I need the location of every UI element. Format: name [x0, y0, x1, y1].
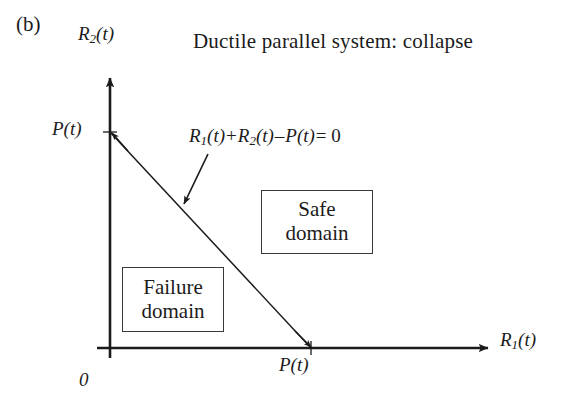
y-axis-label: R2(t) [78, 24, 114, 45]
failure-domain-line1: Failure [143, 276, 202, 300]
x-axis-label-argument: (t) [518, 329, 536, 350]
safe-domain-box: Safe domain [261, 190, 373, 254]
equation-r2-argument: (t) [256, 125, 274, 146]
y-axis-label-argument: (t) [96, 23, 114, 44]
equation-p: P(t) [285, 125, 315, 146]
equation-r2: R [238, 125, 250, 146]
limit-state-line-top-arrow [112, 133, 128, 151]
safe-domain-line1: Safe [298, 198, 335, 222]
figure-panel-b: (b) Ductile parallel system: collapse [0, 0, 574, 406]
origin-label: 0 [79, 370, 89, 389]
equation-r1: R [189, 125, 201, 146]
failure-domain-box: Failure domain [122, 267, 224, 332]
equation-r1-argument: (t) [207, 125, 225, 146]
equation-equals-zero: = 0 [315, 125, 342, 146]
equation-leader-arrow [184, 154, 208, 204]
equation-plus: + [225, 125, 238, 146]
failure-domain-line2: domain [142, 300, 205, 324]
limit-state-line-bottom-arrow [295, 331, 311, 347]
equation-minus: – [274, 125, 286, 146]
y-axis-label-letter: R [78, 23, 90, 44]
x-axis-label-letter: R [500, 329, 512, 350]
y-axis-tick-label-p: P(t) [52, 119, 82, 138]
limit-state-equation: R1(t)+R2(t)–P(t)= 0 [189, 126, 342, 147]
x-axis-tick-label-p: P(t) [279, 355, 309, 374]
safe-domain-line2: domain [286, 222, 349, 246]
x-axis-label: R1(t) [500, 330, 536, 351]
